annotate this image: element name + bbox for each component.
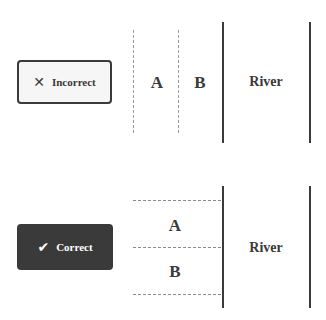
close-icon: ✕ — [33, 75, 45, 89]
river-bank-left — [222, 186, 224, 308]
river-bank-left — [222, 22, 224, 143]
river-bank-right — [309, 22, 311, 143]
zone-a-label: A — [151, 73, 163, 93]
correct-badge: ✔ Correct — [17, 224, 113, 270]
check-icon: ✔ — [37, 240, 49, 254]
river-bank-right — [309, 186, 311, 308]
zone-boundary-dashed-1 — [133, 30, 134, 133]
incorrect-label: Incorrect — [52, 76, 96, 88]
zone-boundary-dashed-2 — [178, 30, 179, 133]
zone-b-label: B — [169, 262, 180, 282]
correct-label: Correct — [56, 241, 92, 253]
zone-b-label: B — [194, 73, 205, 93]
zone-boundary-dashed-middle — [133, 247, 221, 248]
zone-boundary-dashed-top — [133, 200, 221, 201]
zone-a-label: A — [169, 216, 181, 236]
incorrect-badge: ✕ Incorrect — [17, 60, 112, 104]
zone-boundary-dashed-bottom — [133, 294, 221, 295]
river-label: River — [249, 74, 282, 90]
river-label: River — [249, 240, 282, 256]
